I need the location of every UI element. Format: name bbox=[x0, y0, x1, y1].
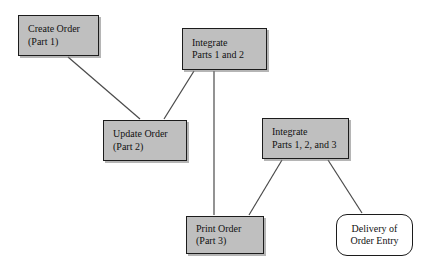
diagram-canvas: Create Order (Part 1) Integrate Parts 1 … bbox=[0, 0, 432, 267]
node-create-order-line-2: (Part 1) bbox=[28, 36, 98, 49]
node-print-order[interactable]: Print Order (Part 3) bbox=[186, 216, 264, 254]
node-delivery-of-order-entry[interactable]: Delivery of Order Entry bbox=[336, 214, 413, 256]
node-integrate-parts-1-and-2[interactable]: Integrate Parts 1 and 2 bbox=[182, 28, 267, 70]
node-delivery-of-order-entry-line-2: Order Entry bbox=[350, 235, 398, 248]
node-update-order-line-2: (Part 2) bbox=[113, 141, 186, 154]
node-print-order-line-2: (Part 3) bbox=[196, 235, 263, 248]
node-integrate-parts-1-2-and-3-line-2: Parts 1, 2, and 3 bbox=[272, 139, 348, 152]
node-integrate-parts-1-and-2-line-1: Integrate bbox=[192, 37, 266, 50]
node-delivery-of-order-entry-line-1: Delivery of bbox=[352, 223, 398, 236]
node-update-order-line-1: Update Order bbox=[113, 128, 186, 141]
edge-create-to-update bbox=[68, 57, 140, 119]
node-update-order[interactable]: Update Order (Part 2) bbox=[103, 120, 187, 161]
edge-integrate123-to-delivery bbox=[328, 160, 362, 213]
node-integrate-parts-1-2-and-3[interactable]: Integrate Parts 1, 2, and 3 bbox=[262, 118, 349, 159]
node-create-order[interactable]: Create Order (Part 1) bbox=[18, 15, 99, 56]
edge-print-to-integrate123 bbox=[249, 160, 282, 215]
node-print-order-line-1: Print Order bbox=[196, 223, 263, 236]
node-integrate-parts-1-2-and-3-line-1: Integrate bbox=[272, 126, 348, 139]
edge-update-to-integrate12 bbox=[164, 71, 194, 119]
node-integrate-parts-1-and-2-line-2: Parts 1 and 2 bbox=[192, 49, 266, 62]
node-create-order-line-1: Create Order bbox=[28, 23, 98, 36]
